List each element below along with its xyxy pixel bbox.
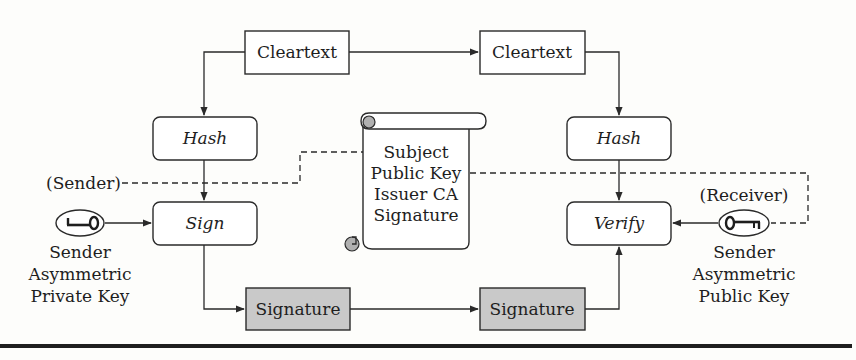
edge-cleartext-to-hash-sender	[204, 52, 245, 115]
cert-signature: Signature	[373, 205, 458, 225]
key-icon	[56, 210, 104, 236]
public-key-line-2: Asymmetric	[692, 264, 796, 284]
hash-sender-label: Hash	[182, 128, 228, 148]
receiver-role-label: (Receiver)	[700, 185, 789, 205]
cleartext-receiver-label: Cleartext	[492, 42, 572, 62]
public-key-line-3: Public Key	[699, 286, 790, 306]
hash-receiver-label: Hash	[596, 128, 642, 148]
certificate-scroll: Subject Public Key Issuer CA Signature	[345, 113, 486, 251]
signature-receiver-label: Signature	[489, 299, 574, 319]
key-icon	[719, 210, 769, 236]
cert-public-key: Public Key	[371, 163, 462, 183]
cleartext-sender-box: Cleartext	[245, 31, 349, 74]
verify-box: Verify	[567, 202, 671, 245]
signature-receiver-box: Signature	[480, 288, 585, 330]
sender-role-label: (Sender)	[46, 173, 121, 193]
cert-subject: Subject	[383, 142, 448, 162]
scroll-top-curl	[363, 116, 375, 128]
private-key-line-2: Asymmetric	[28, 264, 132, 284]
edge-signature-to-verify	[585, 247, 619, 309]
verify-label: Verify	[594, 213, 645, 233]
edge-sign-to-signature	[204, 245, 244, 309]
cleartext-receiver-box: Cleartext	[480, 31, 585, 74]
scroll-top-roll	[361, 113, 486, 129]
private-key: Sender Asymmetric Private Key	[28, 210, 132, 306]
private-key-line-3: Private Key	[31, 286, 130, 306]
hash-sender-box: Hash	[153, 117, 257, 160]
sign-label: Sign	[186, 213, 225, 233]
private-key-line-1: Sender	[49, 242, 112, 262]
bottom-rule	[0, 344, 852, 348]
public-key-line-1: Sender	[713, 242, 776, 262]
cleartext-sender-label: Cleartext	[257, 42, 337, 62]
public-key: Sender Asymmetric Public Key	[692, 210, 796, 306]
cert-issuer-ca: Issuer CA	[374, 184, 459, 204]
signature-sender-box: Signature	[246, 288, 350, 330]
sign-box: Sign	[153, 202, 257, 245]
hash-receiver-box: Hash	[567, 117, 671, 160]
signature-sender-label: Signature	[255, 299, 340, 319]
edge-cleartext-to-hash-receiver	[585, 52, 619, 115]
signature-diagram: Cleartext Cleartext Hash Hash Sign Verif…	[0, 0, 856, 360]
